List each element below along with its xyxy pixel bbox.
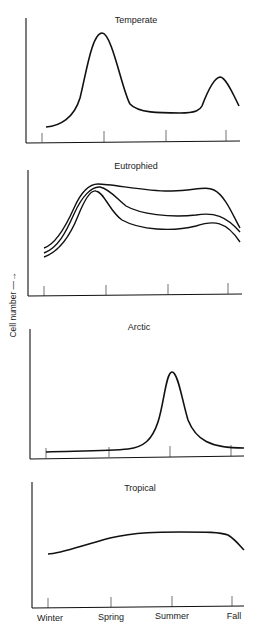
tropical-title: Tropical — [124, 483, 156, 493]
x-label-spring: Spring — [98, 612, 124, 622]
eutrophied-title: Eutrophied — [114, 161, 158, 171]
eutrophied-curve-middle — [44, 187, 240, 253]
x-label-summer: Summer — [155, 611, 189, 621]
temperate-curve — [46, 33, 239, 127]
x-label-fall: Fall — [227, 611, 242, 621]
y-axis-label: Cell number —→ — [8, 270, 18, 340]
eutrophied-curve-lower — [44, 191, 240, 257]
tropical-axes — [32, 482, 244, 608]
arctic-curve — [46, 372, 244, 452]
arctic-axes — [30, 329, 244, 459]
arctic-title: Arctic — [128, 322, 151, 332]
tropical-curve — [48, 532, 244, 554]
seasonal-cell-number-charts — [0, 0, 258, 639]
temperate-title: Temperate — [115, 15, 158, 25]
x-label-winter: Winter — [37, 613, 63, 623]
